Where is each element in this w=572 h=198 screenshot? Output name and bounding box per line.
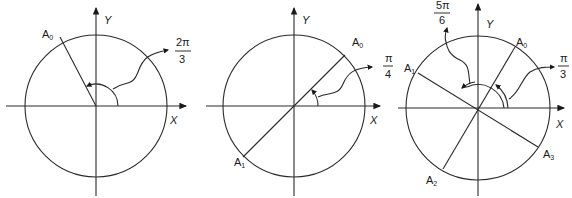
angle-5pi-6-denominator: 6	[439, 14, 445, 26]
y-axis-label: Y	[104, 14, 112, 26]
angle-denominator: 3	[179, 53, 185, 65]
angle-denominator: 4	[385, 68, 391, 80]
point-a1-label: A1	[234, 156, 245, 169]
angle-pointer	[113, 50, 168, 89]
angle-5pi-6-numerator: 5π	[436, 0, 450, 11]
point-a0-label: A0	[516, 36, 527, 49]
angle-numerator: π	[385, 52, 393, 64]
angle-arc	[87, 84, 118, 106]
x-axis-label: X	[369, 114, 378, 126]
x-axis-label: X	[555, 118, 564, 130]
point-a2-label: A2	[426, 174, 437, 187]
angle-pi-3-denominator: 3	[560, 68, 566, 80]
angle-numerator: 2π	[176, 36, 190, 48]
panel-3: A0 A1 A2 A3 Y X 5π 6 π 3	[398, 0, 569, 196]
point-a1-label: A1	[404, 62, 415, 75]
point-a0-label: A0	[352, 36, 363, 49]
angle-pointer-pi-3	[509, 67, 554, 99]
angle-pi-3-numerator: π	[560, 52, 568, 64]
angle-arc-pi-3	[496, 85, 508, 108]
panel-1: A0 Y X 2π 3	[6, 8, 191, 196]
x-axis-label: X	[169, 114, 178, 126]
point-a0-label: A0	[42, 28, 53, 41]
unit-circle-diagrams: A0 Y X 2π 3 A0 A1 Y X π 4 A0 A1 A2	[0, 0, 572, 198]
y-axis-label: Y	[486, 18, 494, 30]
angle-arc	[312, 90, 318, 106]
y-axis-label: Y	[302, 14, 310, 26]
radius-a0	[60, 37, 96, 106]
point-a3-label: A3	[543, 148, 554, 161]
angle-pointer-5pi-6	[445, 28, 470, 84]
panel-2: A0 A1 Y X π 4	[206, 8, 393, 196]
